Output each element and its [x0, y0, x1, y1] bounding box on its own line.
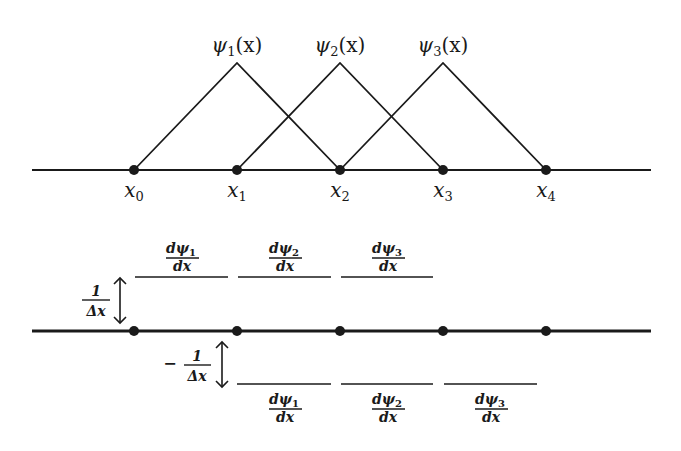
svg-text:−: − — [163, 354, 176, 373]
svg-text:Δx: Δx — [85, 303, 106, 319]
svg-text:dx: dx — [379, 409, 398, 425]
node-label-x2: x2 — [330, 178, 350, 204]
svg-text:dψ3: dψ3 — [475, 391, 505, 409]
node-b1 — [232, 326, 242, 336]
node-label-x1: x1 — [227, 178, 247, 204]
lower-derivative-label-3: dψ3 dx — [475, 391, 508, 425]
top-panel — [32, 63, 651, 170]
basis-psi3 — [340, 63, 546, 170]
node-b3 — [438, 326, 448, 336]
node-label-x0: x0 — [124, 178, 144, 204]
hat-basis-functions-diagram: ψ1(x) ψ2(x) ψ3(x) x0 x1 x2 x3 x4 — [0, 0, 681, 451]
node-x0 — [129, 165, 139, 175]
basis-psi2 — [237, 63, 443, 170]
svg-text:dx: dx — [482, 409, 501, 425]
node-x3 — [438, 165, 448, 175]
svg-text:dψ1: dψ1 — [166, 240, 196, 258]
svg-text:dψ1: dψ1 — [269, 391, 299, 409]
basis-label-psi1: ψ1(x) — [212, 33, 263, 59]
basis-psi1 — [134, 63, 340, 170]
upper-derivative-label-1: dψ1 dx — [166, 240, 199, 274]
node-label-x4: x4 — [536, 178, 556, 204]
svg-text:dx: dx — [379, 258, 398, 274]
upper-derivative-label-2: dψ2 dx — [269, 240, 302, 274]
lower-derivative-label-1: dψ1 dx — [269, 391, 302, 425]
lower-derivative-label-2: dψ2 dx — [372, 391, 405, 425]
node-x4 — [541, 165, 551, 175]
node-b4 — [541, 326, 551, 336]
svg-text:dψ2: dψ2 — [372, 391, 402, 409]
basis-label-psi2: ψ2(x) — [315, 33, 366, 59]
svg-text:1: 1 — [192, 348, 202, 364]
svg-text:dx: dx — [276, 409, 295, 425]
lower-magnitude-arrow — [216, 342, 228, 387]
svg-text:Δx: Δx — [186, 368, 207, 384]
lower-magnitude-label: − 1 Δx — [163, 348, 211, 384]
svg-text:dx: dx — [276, 258, 295, 274]
node-x2 — [335, 165, 345, 175]
node-b0 — [129, 326, 139, 336]
node-label-x3: x3 — [433, 178, 453, 204]
svg-text:dψ3: dψ3 — [372, 240, 402, 258]
svg-text:dψ2: dψ2 — [269, 240, 299, 258]
svg-text:dx: dx — [173, 258, 192, 274]
upper-magnitude-arrow — [114, 278, 126, 323]
svg-text:1: 1 — [91, 283, 101, 299]
node-b2 — [335, 326, 345, 336]
basis-label-psi3: ψ3(x) — [418, 33, 469, 59]
node-x1 — [232, 165, 242, 175]
upper-magnitude-label: 1 Δx — [82, 283, 110, 319]
upper-derivative-label-3: dψ3 dx — [372, 240, 405, 274]
